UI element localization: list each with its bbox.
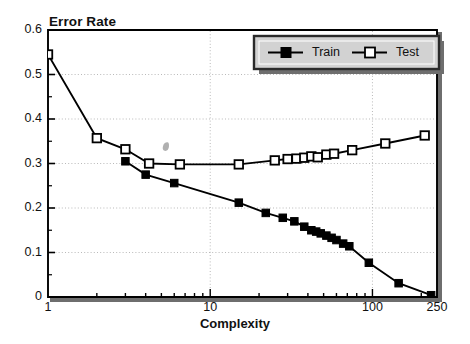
legend-marker-test	[365, 48, 375, 58]
x-tick-label: 1	[18, 300, 78, 314]
x-tick-label: 100	[342, 300, 402, 314]
y-tick-label: 0.1	[2, 245, 42, 259]
legend-marker-train	[281, 48, 291, 58]
y-tick-label: 0.6	[2, 22, 42, 36]
y-tick-label: 0.3	[2, 156, 42, 170]
y-tick-label: 0.4	[2, 111, 42, 125]
legend-label-test: Test	[396, 45, 419, 59]
x-tick-label: 10	[180, 300, 240, 314]
y-tick-label: 0.5	[2, 67, 42, 81]
x-tick-label: 250	[407, 300, 467, 314]
chart-title: Error Rate	[49, 14, 116, 29]
y-tick-label: 0.2	[2, 200, 42, 214]
legend-label-train: Train	[312, 45, 340, 59]
x-axis-label: Complexity	[0, 316, 470, 331]
